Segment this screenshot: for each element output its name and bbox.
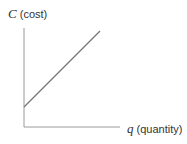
y-axis-label: C (cost) bbox=[8, 6, 47, 22]
x-var: q bbox=[127, 121, 134, 136]
y-desc: (cost) bbox=[20, 8, 48, 20]
x-axis-label: q (quantity) bbox=[127, 121, 182, 137]
y-var: C bbox=[8, 6, 17, 21]
x-desc: (quantity) bbox=[137, 123, 183, 135]
cost-line bbox=[24, 31, 100, 107]
